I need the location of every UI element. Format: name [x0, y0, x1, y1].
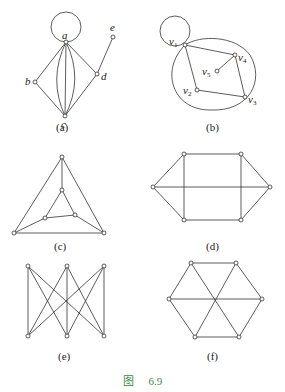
- subfigure-label-f: (f): [207, 350, 218, 363]
- subfigure-label-a: (a): [56, 121, 69, 134]
- caption-prefix: 图: [123, 375, 134, 387]
- graph-figure: a b c d e (a) v1 v4 v5 v2 v3 (b): [0, 0, 285, 392]
- vertex-label-v2: v2: [183, 84, 192, 98]
- vertex-label-v4: v4: [238, 51, 247, 65]
- vertex-label-d: d: [101, 70, 107, 82]
- subfigure-d: (d): [151, 152, 272, 253]
- subfigure-f: (f): [167, 261, 264, 363]
- subfigure-e: (e): [26, 264, 106, 363]
- subfigure-c: (c): [12, 155, 106, 253]
- subfigure-label-d: (d): [206, 240, 219, 253]
- vertex-label-v3: v3: [248, 93, 257, 107]
- vertex-label-a: a: [62, 29, 68, 41]
- vertex-label-v1: v1: [169, 35, 178, 49]
- caption-number: 6.9: [149, 375, 163, 387]
- figure-caption: 图 6.9: [0, 372, 285, 388]
- subfigure-a: a b c d e (a): [25, 12, 115, 134]
- subfigure-label-b: (b): [206, 121, 219, 134]
- vertex-label-b: b: [25, 75, 31, 87]
- subfigure-label-c: (c): [54, 240, 67, 253]
- subfigure-b: v1 v4 v5 v2 v3 (b): [160, 16, 257, 134]
- subfigure-label-e: (e): [58, 350, 71, 363]
- vertex-label-v5: v5: [202, 65, 211, 79]
- vertex-label-e: e: [110, 21, 115, 33]
